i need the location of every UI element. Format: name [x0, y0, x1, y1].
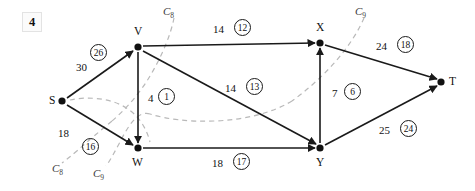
edge-flow-V-X: 12: [234, 19, 251, 36]
edge-S-W: [67, 105, 133, 145]
edge-flow-V-Y: 13: [246, 78, 263, 95]
cut-label-C8-bottom: C8: [52, 163, 63, 177]
edge-flow-Y-X: 6: [344, 83, 361, 100]
node-S: [58, 97, 65, 104]
edge-V-X: [143, 43, 315, 46]
edge-capacity-Y-X: 7: [332, 88, 338, 99]
cut-subscript-C8-top: 8: [170, 11, 174, 20]
node-label-T: T: [449, 76, 456, 88]
node-label-W: W: [132, 157, 143, 169]
edge-flow-W-Y: 17: [233, 153, 250, 170]
node-X: [316, 39, 323, 46]
node-label-V: V: [134, 26, 142, 38]
edge-capacity-V-W: 4: [148, 93, 154, 104]
cut-curve-C9-middle: [150, 101, 292, 121]
cut-label-C8-top: C8: [163, 6, 174, 20]
edge-capacity-W-Y: 18: [212, 158, 223, 169]
node-Y: [316, 144, 323, 151]
edge-capacity-S-W: 18: [58, 128, 69, 139]
edge-capacity-S-V: 30: [76, 62, 87, 73]
node-label-S: S: [49, 95, 55, 107]
edge-capacity-V-X: 14: [213, 24, 224, 35]
edge-flow-S-V: 26: [90, 44, 107, 61]
edge-flow-S-W: 16: [82, 138, 99, 155]
node-W: [134, 144, 141, 151]
edge-capacity-X-T: 24: [376, 41, 387, 52]
node-label-Y: Y: [316, 157, 324, 169]
edge-capacity-V-Y: 14: [225, 83, 236, 94]
figure-canvas: 4: [0, 0, 475, 191]
node-T: [437, 78, 444, 85]
cut-subscript-C9-bottom: 9: [100, 173, 104, 182]
cut-label-C9-bottom: C9: [93, 168, 104, 182]
cut-curve-C8-upper: [112, 18, 174, 121]
edge-capacity-Y-T: 25: [379, 125, 390, 136]
edge-Y-T: [325, 86, 437, 145]
edge-flow-X-T: 18: [397, 36, 414, 53]
cut-subscript-C9-top: 9: [362, 11, 366, 20]
edge-flow-V-W: 1: [158, 88, 175, 105]
edge-flow-Y-T: 24: [400, 120, 417, 137]
cut-label-C9-top: C9: [355, 6, 366, 20]
cut-subscript-C8-bottom: 8: [59, 168, 63, 177]
node-V: [134, 43, 141, 50]
node-label-X: X: [316, 22, 324, 34]
